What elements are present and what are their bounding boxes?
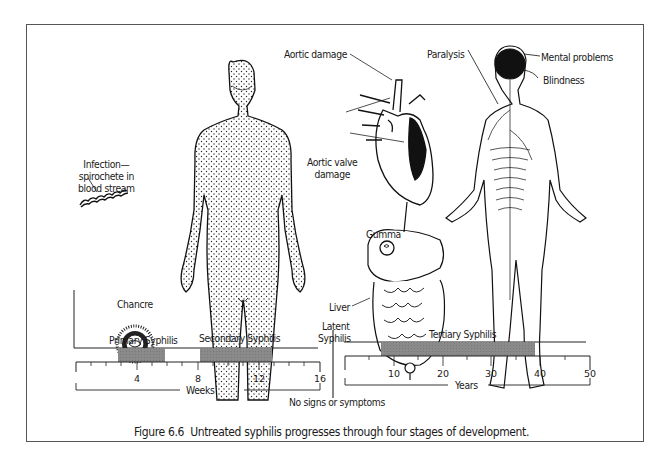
chancre-label: Chancre xyxy=(117,298,153,310)
liver-label: Liver xyxy=(329,301,350,313)
primary-syphilis-label: Primary Syphilis xyxy=(109,334,178,346)
secondary-syphilis-label: Secondary Syphilis xyxy=(199,332,280,344)
years-tick-10: 10 xyxy=(388,368,400,379)
spirochete-label: Infection— spirochete in blood stream xyxy=(78,158,135,194)
heart-illustration xyxy=(358,80,433,205)
years-tick-20: 20 xyxy=(437,368,449,379)
years-tick-30: 30 xyxy=(485,368,497,379)
years-tick-50: 50 xyxy=(584,368,596,379)
primary-stage-bar xyxy=(118,348,165,362)
latent-line2: Syphilis xyxy=(318,332,351,344)
paralysis-label: Paralysis xyxy=(427,48,464,60)
latent-note: No signs or symptoms xyxy=(289,396,385,408)
spirochete-label-line1: Infection— xyxy=(78,158,135,170)
weeks-tick-4: 4 xyxy=(134,373,140,384)
latent-syphilis-label: Latent Syphilis xyxy=(318,320,351,344)
aortic-valve-line2: damage xyxy=(307,168,357,180)
weeks-axis-label: Weeks xyxy=(186,384,214,396)
weeks-tick-8: 8 xyxy=(195,373,201,384)
weeks-tick-12: 12 xyxy=(253,373,265,384)
tertiary-stage-bar xyxy=(381,342,535,356)
spirochete-label-line3: blood stream xyxy=(78,182,135,194)
mental-problems-label: Mental problems xyxy=(541,51,613,63)
aortic-damage-label: Aortic damage xyxy=(284,48,347,60)
years-tick-40: 40 xyxy=(534,368,546,379)
latent-line1: Latent xyxy=(318,320,351,332)
gumma-label: Gumma xyxy=(366,228,401,240)
spirochete-label-line2: spirochete in xyxy=(78,170,135,182)
weeks-tick-16: 16 xyxy=(314,373,326,384)
secondary-stage-bar xyxy=(200,348,272,362)
blindness-label: Blindness xyxy=(543,74,584,86)
illustration-canvas xyxy=(0,0,660,456)
aortic-valve-line1: Aortic valve xyxy=(307,156,357,168)
tertiary-syphilis-label: Tertiary Syphilis xyxy=(429,328,496,340)
caption-number: Figure 6.6 xyxy=(134,425,184,439)
aortic-valve-damage-label: Aortic valve damage xyxy=(307,156,357,180)
caption-text: Untreated syphilis progresses through fo… xyxy=(190,425,529,439)
figure-caption: Figure 6.6 Untreated syphilis progresses… xyxy=(134,425,529,439)
years-axis-label: Years xyxy=(455,379,478,391)
